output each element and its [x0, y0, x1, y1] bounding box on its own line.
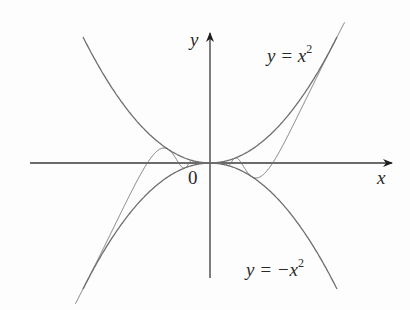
- x-axis-label: x: [377, 168, 385, 187]
- lower-label-exponent: 2: [298, 256, 304, 270]
- upper-curve-label: y = x2: [267, 46, 312, 65]
- upper-label-text: y = x: [267, 45, 306, 66]
- lower-curve-label: y = −x2: [246, 260, 304, 279]
- squeeze-figure: y x 0 y = x2 y = −x2: [0, 0, 410, 310]
- y-axis-label: y: [190, 30, 198, 49]
- upper-label-exponent: 2: [306, 42, 312, 56]
- origin-label: 0: [188, 168, 198, 187]
- plot-area: [0, 0, 410, 310]
- lower-label-text: y = −x: [246, 259, 298, 280]
